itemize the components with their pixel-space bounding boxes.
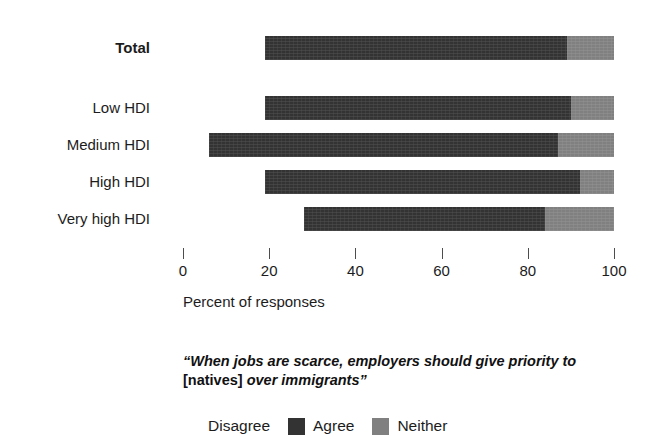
x-axis-tick-mark — [614, 248, 615, 259]
caption-part-3: over immigrants” — [243, 372, 367, 388]
bar-segment-neither — [558, 133, 614, 157]
x-axis-tick-mark — [183, 248, 184, 259]
bar-segment-neither — [580, 170, 614, 194]
bar-segment-agree — [304, 207, 545, 231]
bar-track — [0, 36, 648, 60]
bar-segment-disagree — [183, 96, 265, 120]
bar-segment-agree — [209, 133, 558, 157]
bar-track — [0, 96, 648, 120]
x-axis-tick-mark — [442, 248, 443, 259]
bar-segment-neither — [571, 96, 614, 120]
x-axis-tick-label: 60 — [433, 262, 450, 280]
x-axis-tick-label: 100 — [601, 262, 626, 280]
legend-label: Neither — [397, 416, 447, 436]
chart-row-high-hdi: High HDI — [0, 170, 648, 194]
bar-segment-agree — [265, 96, 571, 120]
stacked-bar-chart: TotalLow HDIMedium HDIHigh HDIVery high … — [0, 0, 648, 300]
bar-track — [0, 133, 648, 157]
x-axis-title: Percent of responses — [183, 293, 325, 310]
x-axis-tick-label: 40 — [347, 262, 364, 280]
legend-swatch-icon — [288, 418, 305, 435]
legend-item-neither[interactable]: Neither — [372, 416, 447, 436]
bar-segment-agree — [265, 170, 580, 194]
bar-segment-disagree — [183, 133, 209, 157]
legend-item-disagree[interactable]: Disagree — [183, 416, 288, 436]
x-axis-tick-mark — [269, 248, 270, 259]
legend-label: Agree — [313, 416, 354, 436]
x-axis-tick-label: 0 — [179, 262, 187, 280]
x-axis: 020406080100 — [0, 248, 648, 290]
legend-label: Disagree — [208, 416, 270, 436]
chart-row-medium-hdi: Medium HDI — [0, 133, 648, 157]
bar-segment-agree — [265, 36, 567, 60]
chart-row-total: Total — [0, 36, 648, 60]
legend-swatch-icon — [183, 418, 200, 435]
bar-segment-disagree — [183, 170, 265, 194]
caption-bracketed-term: [natives] — [183, 372, 243, 388]
chart-question-caption: “When jobs are scarce, employers should … — [183, 352, 603, 390]
chart-row-very-high-hdi: Very high HDI — [0, 207, 648, 231]
bar-segment-disagree — [183, 36, 265, 60]
bar-track — [0, 207, 648, 231]
chart-row-low-hdi: Low HDI — [0, 96, 648, 120]
x-axis-tick-label: 20 — [261, 262, 278, 280]
legend-item-agree[interactable]: Agree — [288, 416, 372, 436]
x-axis-tick-label: 80 — [519, 262, 536, 280]
chart-legend: DisagreeAgreeNeither — [183, 414, 603, 438]
bar-segment-neither — [545, 207, 614, 231]
legend-swatch-icon — [372, 418, 389, 435]
bar-segment-disagree — [183, 207, 304, 231]
x-axis-tick-mark — [528, 248, 529, 259]
x-axis-tick-mark — [355, 248, 356, 259]
caption-part-1: “When jobs are scarce, employers should … — [183, 353, 576, 369]
bar-track — [0, 170, 648, 194]
bar-segment-neither — [567, 36, 614, 60]
